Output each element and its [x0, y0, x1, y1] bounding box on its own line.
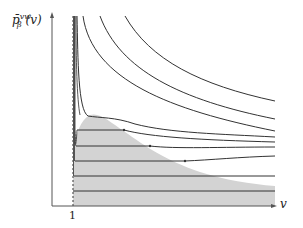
chart-plot — [0, 0, 303, 228]
shaded-region — [73, 114, 275, 206]
y-axis-label: p̄vwβ (v) — [12, 12, 42, 29]
x-axis-label: v — [280, 197, 287, 211]
y-axis-arrow-icon — [50, 12, 54, 18]
x-tick-1: 1 — [69, 209, 76, 222]
upper-curves — [77, 16, 275, 137]
